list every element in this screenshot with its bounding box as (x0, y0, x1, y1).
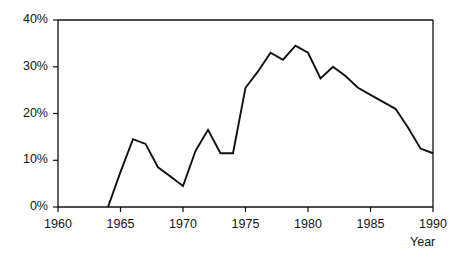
y-tick-label-10: 10% (10, 153, 48, 166)
x-tick-marks (58, 207, 433, 212)
y-tick-label-20: 20% (10, 107, 48, 120)
x-tick-label-1980: 1980 (278, 218, 338, 231)
y-tick-label-40: 40% (10, 13, 48, 26)
x-tick-label-1965: 1965 (91, 218, 151, 231)
y-tick-label-30: 30% (10, 60, 48, 73)
x-axis-title: Year (410, 236, 435, 249)
y-tick-label-0: 0% (10, 200, 48, 213)
x-tick-label-1970: 1970 (153, 218, 213, 231)
y-tick-marks (53, 20, 58, 207)
line-chart: 0% 10% 20% 30% 40% 1960 1965 1970 1975 1… (0, 0, 462, 262)
data-series-line (108, 46, 433, 207)
x-tick-label-1960: 1960 (28, 218, 88, 231)
x-tick-label-1985: 1985 (341, 218, 401, 231)
x-tick-label-1990: 1990 (403, 218, 462, 231)
x-tick-label-1975: 1975 (216, 218, 276, 231)
